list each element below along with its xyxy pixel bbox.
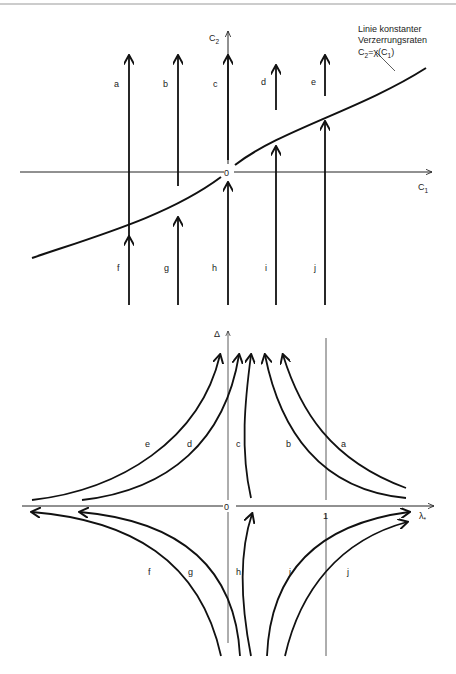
curve-label-i: i [289, 567, 291, 577]
curve-annotation-line2: Verzerrungsraten [358, 35, 427, 45]
curve-label-b: b [286, 439, 291, 449]
strain-rate-curve-left [32, 177, 221, 258]
curve-annotation-line3: C2=χ(C1) [358, 47, 394, 59]
lambda-one-label: 1 [323, 511, 328, 521]
curve-label-e: e [145, 439, 150, 449]
trajectory-curve-j [285, 522, 407, 656]
delta-axis-label: Δ [214, 329, 220, 339]
arrow-label-j: j [313, 263, 316, 273]
arrow-label-f: f [117, 263, 120, 273]
lambda-axis-label: λ* [419, 511, 427, 523]
curve-label-h: h [236, 567, 241, 577]
trajectory-curve-f [32, 512, 221, 656]
trajectory-curve-i [267, 512, 409, 656]
curve-label-d: d [187, 439, 192, 449]
arrow-label-c: c [213, 79, 218, 89]
curve-label-g: g [188, 567, 193, 577]
arrow-label-b: b [163, 79, 168, 89]
curve-label-j: j [346, 567, 349, 577]
curve-label-c: c [236, 439, 241, 449]
trajectory-curve-c [244, 355, 251, 498]
arrow-label-i: i [265, 263, 267, 273]
bottom-diagram: Δ λ* 0 1 e d c b a f g h i j [22, 329, 434, 656]
trajectory-curve-b [265, 355, 406, 498]
c1-axis-label: C1 [418, 182, 429, 194]
arrow-label-a: a [114, 79, 119, 89]
trajectory-curve-h [243, 514, 252, 656]
top-diagram: C2 C1 0 Linie konstanter Verzerrungsrate… [20, 24, 432, 305]
curve-label-f: f [148, 567, 151, 577]
arrow-label-h: h [212, 263, 217, 273]
curve-annotation-line1: Linie konstanter [358, 24, 422, 34]
bottom-origin-label: 0 [224, 502, 229, 512]
trajectory-curve-d [82, 355, 239, 500]
arrow-label-d: d [261, 77, 266, 87]
trajectory-curve-e [32, 355, 220, 500]
top-origin-label: 0 [224, 168, 229, 178]
arrow-label-e: e [311, 77, 316, 87]
phase-diagram-figure: C2 C1 0 Linie konstanter Verzerrungsrate… [0, 0, 456, 674]
c2-axis-label: C2 [209, 33, 220, 45]
trajectory-curve-a [283, 355, 406, 488]
arrow-label-g: g [164, 263, 169, 273]
curve-label-a: a [341, 439, 346, 449]
